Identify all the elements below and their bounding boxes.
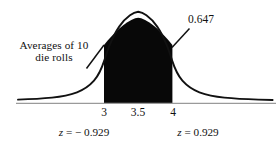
- axis-tick-label-3-5: 3.5: [118, 106, 158, 118]
- leader-line-area-label: [172, 29, 190, 48]
- axis-tick-label-4: 4: [153, 106, 193, 118]
- distribution-label-line2: die rolls: [35, 51, 72, 63]
- distribution-label: Averages of 10 die rolls: [8, 39, 100, 63]
- normal-curve-figure: Averages of 10 die rolls 0.647 3 3.5 4 z…: [0, 0, 280, 149]
- z-score-label-right: z = 0.929: [143, 126, 253, 138]
- distribution-label-line1: Averages of 10: [20, 39, 89, 51]
- shaded-area-region: [104, 18, 172, 103]
- z-equation-right: = 0.929: [184, 126, 218, 138]
- z-equation-left: = − 0.929: [66, 126, 109, 138]
- area-value-label: 0.647: [188, 13, 214, 25]
- z-variable-left: z: [59, 126, 63, 138]
- z-variable-right: z: [177, 126, 181, 138]
- z-score-label-left: z = − 0.929: [29, 126, 139, 138]
